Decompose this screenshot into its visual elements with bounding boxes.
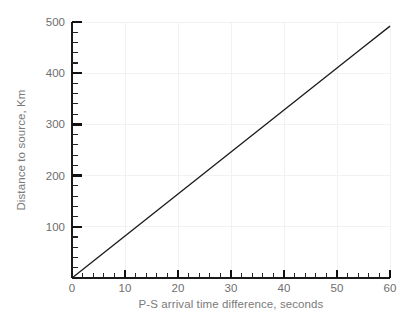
y-tick-label: 100 [46,221,65,233]
y-tick-label: 200 [46,170,65,182]
y-tick-label: 400 [46,67,65,79]
chart-background [0,0,414,322]
x-tick-label: 30 [225,282,238,294]
x-tick-label: 60 [384,282,397,294]
x-tick-label: 10 [119,282,132,294]
x-tick-label: 50 [331,282,344,294]
x-tick-label: 40 [278,282,291,294]
x-tick-label: 0 [69,282,75,294]
x-tick-label: 20 [172,282,185,294]
y-tick-label: 500 [46,16,65,28]
y-axis-title: Distance to source, Km [15,89,27,210]
x-axis-title: P-S arrival time difference, seconds [139,298,324,310]
line-chart: 0102030405060 100200300400500 P-S arriva… [0,0,414,322]
chart-container: 0102030405060 100200300400500 P-S arriva… [0,0,414,322]
y-tick-label: 300 [46,118,65,130]
